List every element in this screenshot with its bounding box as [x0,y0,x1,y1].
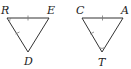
triangle-cat-outline [82,18,123,52]
vertex-label-r: R [0,4,9,17]
triangle-cat: C A T [76,4,129,69]
vertex-label-e: E [46,4,55,17]
angle-arc-t [99,48,105,49]
vertex-label-c: C [76,4,85,17]
vertex-label-a: A [120,4,129,17]
vertex-label-t: T [98,56,107,69]
triangles-diagram: R E D C A T [0,0,131,69]
angle-arc-r [10,18,11,22]
triangle-red: R E D [0,4,55,68]
triangle-red-outline [7,18,49,52]
vertex-label-d: D [23,55,33,68]
